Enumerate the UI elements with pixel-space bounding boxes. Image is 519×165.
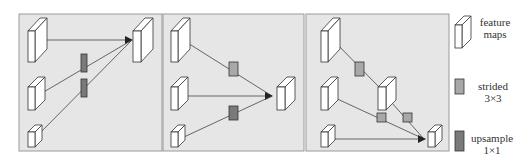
strided-block <box>403 113 412 122</box>
strided-block <box>355 62 364 76</box>
upsample-block <box>81 54 87 72</box>
legend-upsample-line1: upsample <box>465 132 519 144</box>
legend-strided-label: strided 3×3 <box>468 80 518 104</box>
strided-block <box>377 113 386 122</box>
legend-strided-line2: 3×3 <box>468 92 518 104</box>
diagram-canvas <box>0 0 519 165</box>
upsample-block <box>229 106 238 120</box>
legend-feature-maps-label: feature maps <box>470 16 519 40</box>
upsample-block <box>81 79 87 97</box>
legend-strided-line1: strided <box>468 80 518 92</box>
legend-feature-map-icon <box>455 16 471 48</box>
legend-feature-maps-line2: maps <box>470 28 519 40</box>
legend-upsample-label: upsample 1×1 <box>465 132 519 156</box>
legend-feature-maps-line1: feature <box>470 16 519 28</box>
legend-upsample-icon <box>455 131 464 151</box>
legend-upsample-line2: 1×1 <box>465 144 519 156</box>
legend-strided-icon <box>455 79 464 94</box>
strided-block <box>229 62 238 76</box>
